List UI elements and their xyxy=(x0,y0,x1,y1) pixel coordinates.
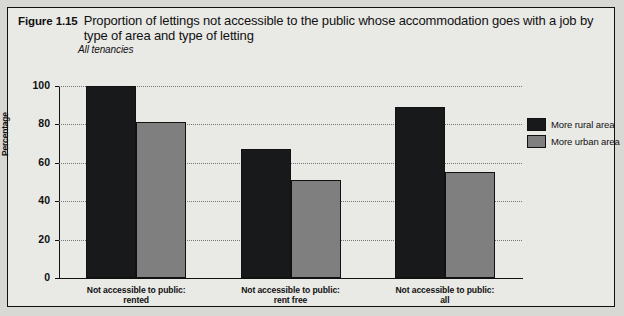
y-axis-tick-label: 80 xyxy=(20,117,50,129)
legend-label: More rural area xyxy=(551,119,614,130)
y-axis-tick-label: 40 xyxy=(20,194,50,206)
y-axis-tick-label: 100 xyxy=(20,79,50,91)
x-axis-category-label: Not accessible to public:rent free xyxy=(216,285,366,306)
y-axis-tick-label: 60 xyxy=(20,156,50,168)
figure-number: Figure 1.15 xyxy=(18,14,84,27)
plot-area xyxy=(59,86,522,278)
figure-panel: Figure 1.15 Proportion of lettings not a… xyxy=(7,7,615,307)
bar-rural-1 xyxy=(241,149,291,278)
y-axis-tick-label: 20 xyxy=(20,233,50,245)
x-axis-category-line: all xyxy=(370,295,520,305)
x-axis-category-line: Not accessible to public: xyxy=(370,285,520,295)
figure-subtitle: All tenancies xyxy=(78,44,604,55)
legend-swatch-icon xyxy=(527,135,546,148)
legend-item: More urban area xyxy=(527,135,620,148)
title-row: Figure 1.15 Proportion of lettings not a… xyxy=(18,14,604,43)
y-axis-tick-mark xyxy=(55,278,59,279)
page-title: Proportion of lettings not accessible to… xyxy=(84,14,604,43)
x-axis-category-line: rent free xyxy=(216,295,366,305)
chart-legend: More rural areaMore urban area xyxy=(527,118,620,152)
legend-item: More rural area xyxy=(527,118,620,131)
bar-urban-0 xyxy=(136,122,186,278)
x-axis-category-line: rented xyxy=(61,295,211,305)
x-axis-category-line: Not accessible to public: xyxy=(61,285,211,295)
x-axis-category-label: Not accessible to public:all xyxy=(370,285,520,306)
x-axis-category-label: Not accessible to public:rented xyxy=(61,285,211,306)
bar-urban-2 xyxy=(445,172,495,278)
figure-header: Figure 1.15 Proportion of lettings not a… xyxy=(8,8,614,55)
y-axis-label: Percentage xyxy=(0,112,10,156)
bar-urban-1 xyxy=(291,180,341,278)
x-axis-category-line: Not accessible to public: xyxy=(216,285,366,295)
y-axis-tick-label: 0 xyxy=(20,271,50,283)
x-axis-line xyxy=(59,278,523,279)
legend-swatch-icon xyxy=(527,118,546,131)
legend-label: More urban area xyxy=(551,136,620,147)
bar-rural-2 xyxy=(395,107,445,278)
bar-rural-0 xyxy=(86,86,136,278)
